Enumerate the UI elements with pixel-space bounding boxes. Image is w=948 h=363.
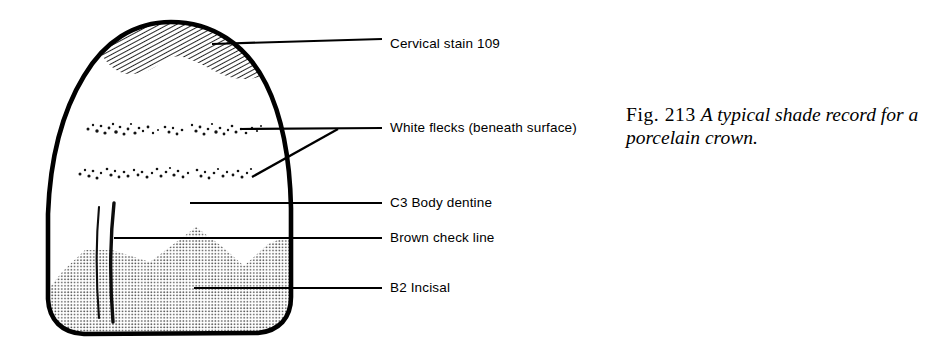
callout-label-b2-incisal: B2 Incisal [390, 281, 450, 295]
callout-label-brown-check-line: Brown check line [390, 231, 494, 245]
callout-label-white-flecks: White flecks (beneath surface) [390, 121, 577, 135]
leader-white-flecks-upper [240, 128, 382, 129]
leader-cervical-stain [212, 39, 382, 44]
figure-container: Cervical stain 109 White flecks (beneath… [0, 0, 948, 363]
tooth-shade-diagram [0, 0, 948, 363]
callout-label-cervical-stain: Cervical stain 109 [390, 37, 500, 51]
callout-label-c3-body-dentine: C3 Body dentine [390, 196, 492, 210]
figure-number: Fig. 213 [626, 104, 696, 125]
figure-caption: Fig. 213 A typical shade record for a po… [626, 104, 926, 149]
